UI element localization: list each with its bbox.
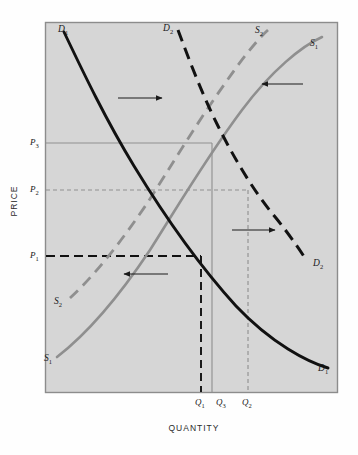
price-tick-p2: P2 bbox=[30, 184, 39, 196]
curve-label-d1-top-sub: 1 bbox=[65, 29, 68, 36]
curve-label-s2-top: S2 bbox=[255, 25, 263, 37]
quantity-tick-q1: Q1 bbox=[195, 397, 205, 409]
curve-label-d2-right-sub: 2 bbox=[320, 263, 323, 270]
curve-label-d2-right: D2 bbox=[313, 258, 323, 270]
curve-label-d2-top-letter: D bbox=[163, 23, 170, 33]
plot-panel bbox=[46, 23, 338, 393]
curve-label-d1-right: D1 bbox=[318, 363, 328, 375]
quantity-tick-q1-sub: 1 bbox=[202, 402, 205, 409]
curve-label-s1-top-sub: 1 bbox=[315, 43, 318, 50]
quantity-tick-q3: Q3 bbox=[216, 397, 226, 409]
curve-label-d1-top-letter: D bbox=[58, 24, 65, 34]
curve-label-s1-left-sub: 1 bbox=[49, 358, 52, 365]
price-tick-p3: P3 bbox=[30, 137, 39, 149]
curve-label-d1-right-letter: D bbox=[318, 363, 325, 373]
price-tick-p2-sub: 2 bbox=[36, 189, 39, 196]
curve-label-s2-left: S2 bbox=[54, 296, 62, 308]
quantity-tick-q2: Q2 bbox=[242, 397, 252, 409]
curve-label-d2-top-sub: 2 bbox=[170, 28, 173, 35]
curve-label-d1-right-sub: 1 bbox=[325, 368, 328, 375]
supply-demand-chart bbox=[0, 0, 358, 455]
quantity-tick-q2-sub: 2 bbox=[249, 402, 252, 409]
x-axis-title: QUANTITY bbox=[139, 423, 249, 433]
curve-label-s2-left-sub: 2 bbox=[59, 301, 62, 308]
quantity-tick-q3-sub: 3 bbox=[223, 402, 226, 409]
price-tick-p3-sub: 3 bbox=[36, 142, 39, 149]
curve-label-d2-top: D2 bbox=[163, 23, 173, 35]
y-axis-title: PRICE bbox=[9, 173, 19, 229]
curve-label-d2-right-letter: D bbox=[313, 258, 320, 268]
price-tick-p1-sub: 1 bbox=[36, 255, 39, 262]
curve-label-s2-top-sub: 2 bbox=[260, 30, 263, 37]
curve-label-s1-left: S1 bbox=[44, 353, 52, 365]
figure-canvas: PRICE QUANTITY P3 P2 P1 Q1 Q3 Q2 D1 D2 S… bbox=[0, 0, 358, 455]
curve-label-s1-top: S1 bbox=[310, 38, 318, 50]
price-tick-p1: P1 bbox=[30, 250, 39, 262]
curve-label-d1-top: D1 bbox=[58, 24, 68, 36]
